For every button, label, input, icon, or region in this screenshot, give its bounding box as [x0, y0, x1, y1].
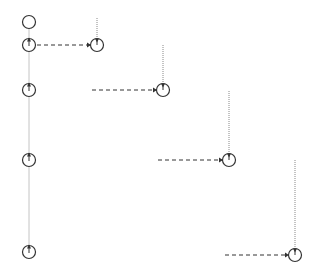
diagram-canvas [0, 0, 316, 277]
left-node-1 [23, 16, 36, 29]
